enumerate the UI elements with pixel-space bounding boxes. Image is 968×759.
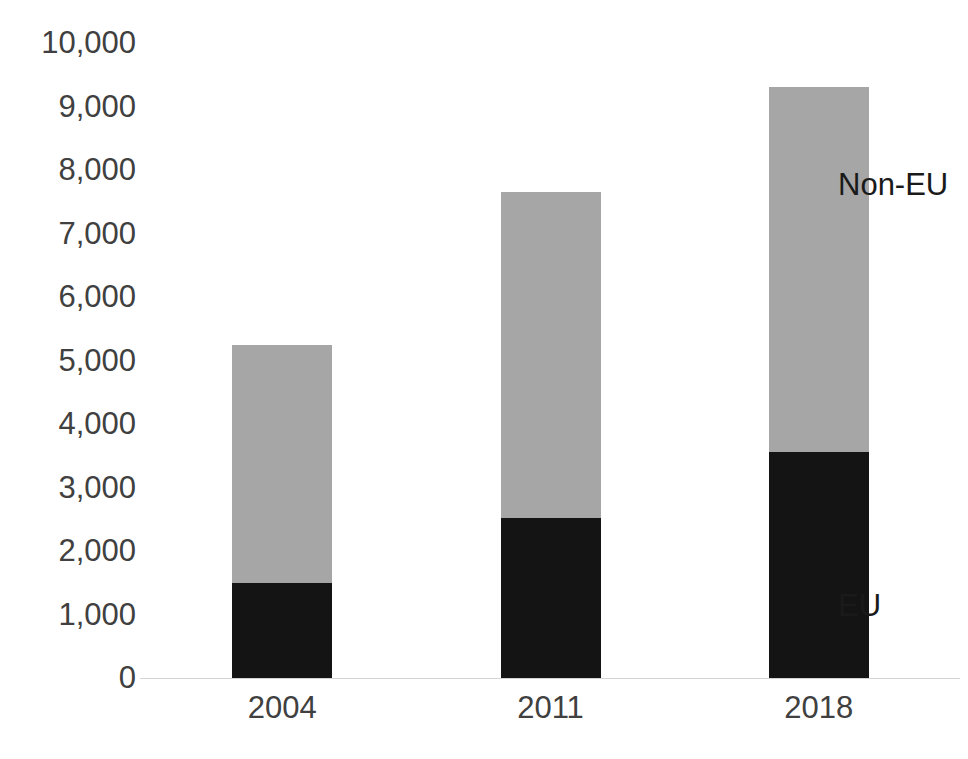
- y-axis-tick-label: 5,000: [58, 343, 136, 379]
- y-axis-tick-label: 4,000: [58, 406, 136, 442]
- y-axis: 10,0009,0008,0007,0006,0005,0004,0003,00…: [0, 43, 136, 678]
- series-label-non-eu: Non-EU: [838, 167, 948, 203]
- bar-segment-eu-2011[interactable]: [501, 518, 601, 678]
- x-axis-tick-label: 2004: [248, 690, 317, 726]
- stacked-bar-chart: 10,0009,0008,0007,0006,0005,0004,0003,00…: [0, 0, 968, 759]
- x-axis-baseline: [140, 678, 960, 679]
- bar-segment-eu-2018[interactable]: [769, 452, 869, 678]
- x-axis-tick-label: 2011: [517, 690, 584, 726]
- y-axis-tick-label: 1,000: [58, 597, 136, 633]
- y-axis-tick-label: 3,000: [58, 470, 136, 506]
- bar-segment-non-eu-2004[interactable]: [232, 345, 332, 583]
- bar-segment-non-eu-2018[interactable]: [769, 87, 869, 451]
- bar-segment-non-eu-2011[interactable]: [501, 192, 601, 518]
- series-label-eu: EU: [838, 588, 881, 624]
- bar-column-2011[interactable]: [501, 192, 601, 678]
- y-axis-tick-label: 8,000: [58, 152, 136, 188]
- x-axis: 200420112018: [148, 690, 953, 740]
- plot-area: [148, 43, 953, 678]
- y-axis-tick-label: 2,000: [58, 533, 136, 569]
- x-axis-tick-label: 2018: [784, 690, 853, 726]
- bar-segment-eu-2004[interactable]: [232, 583, 332, 678]
- y-axis-tick-label: 0: [119, 660, 136, 696]
- y-axis-tick-label: 9,000: [58, 89, 136, 125]
- bar-column-2004[interactable]: [232, 345, 332, 678]
- y-axis-tick-label: 6,000: [58, 279, 136, 315]
- y-axis-tick-label: 10,000: [41, 25, 136, 61]
- y-axis-tick-label: 7,000: [58, 216, 136, 252]
